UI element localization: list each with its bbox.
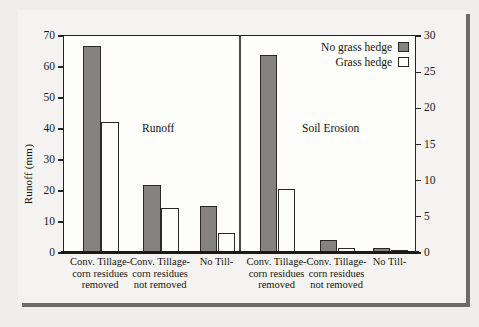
right-axis-tick xyxy=(415,216,421,217)
legend-item-no-grass-hedge: No grass hedge xyxy=(321,41,409,53)
bar-grass-hedge xyxy=(161,208,179,252)
right-axis-tick xyxy=(415,180,421,181)
category-label-line: No Till- xyxy=(350,256,430,268)
bar-no-grass-hedge xyxy=(260,55,278,252)
left-axis-tick-label: 70 xyxy=(44,30,56,42)
left-axis-tick xyxy=(58,66,64,67)
bar-no-grass-hedge xyxy=(200,206,218,253)
left-axis-tick-label: 20 xyxy=(44,185,56,197)
left-axis-tick xyxy=(58,128,64,129)
right-axis-tick xyxy=(415,35,421,36)
x-axis-baseline xyxy=(61,251,419,254)
right-axis-tick-label: 15 xyxy=(424,139,436,151)
legend-label: Grass hedge xyxy=(335,56,392,68)
bar-no-grass-hedge xyxy=(83,46,101,252)
category-label-line: not removed xyxy=(297,279,377,291)
panel-divider xyxy=(239,36,240,252)
left-axis-tick-label: 0 xyxy=(49,247,55,259)
page-edge-bottom xyxy=(22,303,470,307)
figure-page: Runoff (mm) Soil Erosion (mg/ha) 0102030… xyxy=(0,0,479,327)
category-label-line: corn residues xyxy=(297,268,377,280)
right-axis-tick-label: 10 xyxy=(424,175,436,187)
category-label-line: not removed xyxy=(120,279,200,291)
legend-item-grass-hedge: Grass hedge xyxy=(335,56,409,68)
panel-caption-soil-erosion: Soil Erosion xyxy=(302,122,359,134)
right-axis-tick-label: 25 xyxy=(424,66,436,78)
left-axis-tick xyxy=(58,97,64,98)
left-axis-tick xyxy=(58,159,64,160)
legend-swatch-gray xyxy=(398,42,409,52)
right-axis-tick-label: 20 xyxy=(424,102,436,114)
right-axis-tick xyxy=(415,144,421,145)
right-axis-tick-label: 30 xyxy=(424,30,436,42)
left-axis-tick xyxy=(58,35,64,36)
category-label: No Till- xyxy=(350,256,430,268)
legend-label: No grass hedge xyxy=(321,41,392,53)
left-axis-tick-label: 30 xyxy=(44,154,56,166)
left-axis-tick-label: 40 xyxy=(44,123,56,135)
page-edge-right xyxy=(466,14,470,306)
bar-grass-hedge xyxy=(101,122,119,252)
panel-caption-runoff: Runoff xyxy=(142,122,174,134)
plot-area: Runoff (mm) Soil Erosion (mg/ha) 0102030… xyxy=(63,35,416,252)
left-axis-tick-label: 50 xyxy=(44,92,56,104)
left-axis-tick-label: 60 xyxy=(44,61,56,73)
category-label-line: corn residues xyxy=(120,268,200,280)
left-axis-tick xyxy=(58,190,64,191)
right-axis-tick-label: 5 xyxy=(424,211,430,223)
bar-grass-hedge xyxy=(278,189,296,252)
legend: No grass hedge Grass hedge xyxy=(321,41,409,68)
legend-swatch-white xyxy=(398,57,409,67)
right-axis-tick xyxy=(415,72,421,73)
left-axis-title: Runoff (mm) xyxy=(22,144,34,204)
left-axis-tick xyxy=(58,221,64,222)
bar-no-grass-hedge xyxy=(143,185,161,252)
right-axis-tick xyxy=(415,108,421,109)
bar-grass-hedge xyxy=(218,233,236,252)
left-axis-tick-label: 10 xyxy=(44,216,56,228)
